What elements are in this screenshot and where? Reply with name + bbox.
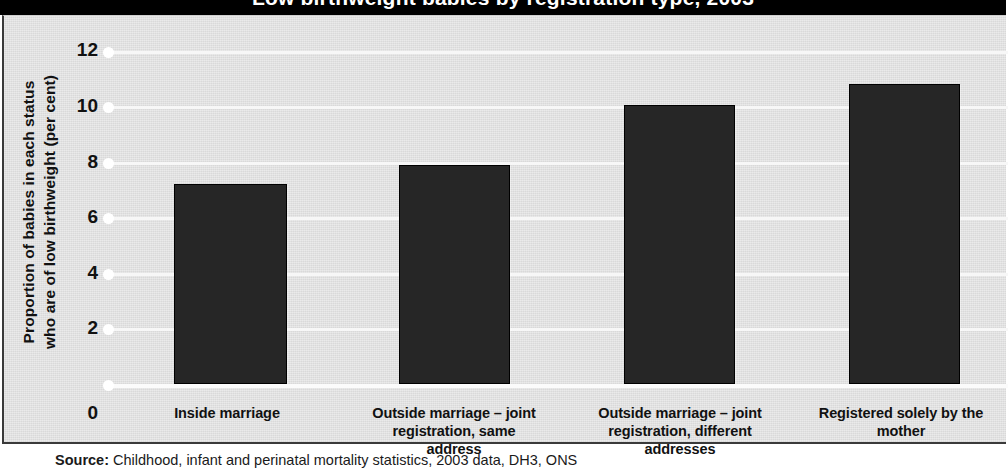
bar-registered-solely-by-mother	[849, 84, 960, 384]
category-label-outside-joint-different-addresses: Outside marriage – joint registration, d…	[566, 404, 794, 458]
y-tick-label-6: 6	[52, 206, 98, 228]
tick-dot-8	[103, 158, 114, 169]
category-label-line: mother	[877, 423, 926, 439]
y-tick-label-10: 10	[52, 95, 98, 117]
bar-inside-marriage	[174, 184, 287, 384]
chart-frame: Proportion of babies in each status who …	[2, 15, 1006, 443]
y-tick-label-8: 8	[52, 151, 98, 173]
category-label-outside-joint-same-address: Outside marriage – joint registration, s…	[340, 404, 568, 458]
tick-dot-10	[103, 102, 114, 113]
bar-outside-joint-different-addresses	[624, 105, 735, 384]
category-label-line: Registered solely by the	[819, 405, 983, 421]
y-tick-label-0: 0	[52, 402, 98, 424]
y-tick-label-12: 12	[52, 39, 98, 61]
category-label-line: Outside marriage – joint	[372, 405, 536, 421]
frame-bottom-rule	[2, 442, 1006, 444]
source-label: Source:	[55, 452, 109, 468]
category-label-registered-solely-by-mother: Registered solely by the mother	[794, 404, 1008, 440]
tick-dot-0	[103, 380, 114, 391]
category-label-line: registration, different	[608, 423, 752, 439]
y-axis-caption-line-1: Proportion of babies in each status	[20, 81, 37, 344]
title-banner: Low birthweight babies by registration t…	[0, 0, 1006, 15]
source-note: Source: Childhood, infant and perinatal …	[55, 452, 577, 468]
category-label-line: registration, same	[392, 423, 515, 439]
tick-dot-12	[103, 47, 114, 58]
tick-dot-6	[103, 213, 114, 224]
chart-title: Low birthweight babies by registration t…	[0, 0, 1006, 10]
gridline-12	[109, 51, 1008, 54]
tick-dot-4	[103, 269, 114, 280]
bar-outside-joint-same-address	[399, 165, 510, 384]
y-tick-label-2: 2	[52, 317, 98, 339]
category-label-inside-marriage: Inside marriage	[122, 404, 332, 422]
plot-area	[109, 51, 1008, 398]
category-label-line: Inside marriage	[174, 405, 280, 421]
y-tick-label-4: 4	[52, 262, 98, 284]
gridline-0	[109, 384, 1008, 388]
category-label-line: Outside marriage – joint	[598, 405, 762, 421]
source-text: Childhood, infant and perinatal mortalit…	[109, 452, 577, 468]
tick-dot-2	[103, 324, 114, 335]
